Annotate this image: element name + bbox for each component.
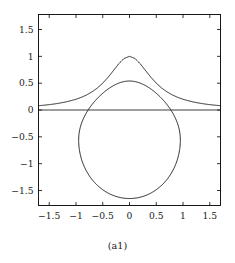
figure-panel: −1.5−1−0.500.511.5 −1.5−1−0.500.511.5 (a… (0, 0, 235, 263)
x-tick-label: 0 (127, 210, 133, 221)
y-axis-tick-labels: −1.5−1−0.500.511.5 (11, 24, 33, 196)
y-tick-label: −1.5 (11, 185, 33, 196)
plot-canvas: −1.5−1−0.500.511.5 −1.5−1−0.500.511.5 (a… (0, 0, 235, 263)
y-tick-label: 0 (28, 104, 34, 115)
x-tick-label: −1 (69, 210, 83, 221)
x-tick-label: −1.5 (38, 210, 60, 221)
x-tick-label: 0.5 (149, 210, 164, 221)
figure-caption: (a1) (108, 240, 127, 251)
x-tick-label: 1 (180, 210, 186, 221)
y-tick-label: 1.5 (19, 24, 34, 35)
x-axis-tick-labels: −1.5−1−0.500.511.5 (38, 210, 217, 221)
x-tick-label: −0.5 (92, 210, 114, 221)
y-tick-label: −1 (20, 158, 34, 169)
x-tick-label: 1.5 (202, 210, 217, 221)
closed-teardrop-curve (79, 81, 181, 199)
curve-group (39, 56, 221, 198)
y-tick-label: 0.5 (19, 77, 34, 88)
y-tick-label: −0.5 (11, 131, 33, 142)
y-tick-label: 1 (28, 51, 34, 62)
